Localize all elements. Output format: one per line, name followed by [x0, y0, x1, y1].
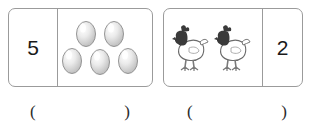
problem-2-answer-blank[interactable]: ( ) [187, 95, 287, 127]
chicken-group [164, 9, 262, 86]
egg-icon [117, 46, 139, 74]
egg-icon [89, 47, 111, 75]
problem-2-objects-cell[interactable] [164, 9, 262, 86]
worksheet-canvas: 5 [0, 0, 313, 137]
egg-group [58, 9, 152, 86]
egg-icon [75, 19, 97, 47]
egg-icon [61, 46, 83, 74]
problem-2-box: 2 [163, 8, 303, 87]
problem-2-number-cell[interactable]: 2 [263, 9, 302, 86]
problem-1-answer-blank[interactable]: ( ) [30, 95, 130, 127]
problem-2-number-value: 2 [277, 36, 289, 60]
chicken-icon [214, 21, 254, 73]
problem-1-close-paren: ) [124, 103, 130, 120]
problem-1-number-cell[interactable]: 5 [9, 9, 57, 86]
chicken-icon [172, 21, 212, 73]
problem-1-number-value: 5 [27, 36, 39, 60]
problem-2: 2 ( ) [163, 0, 306, 137]
problem-1-box: 5 [8, 8, 153, 87]
problem-2-close-paren: ) [281, 103, 287, 120]
egg-icon [103, 19, 125, 47]
problem-2-open-paren: ( [187, 103, 193, 120]
problem-1-open-paren: ( [30, 103, 36, 120]
problem-1-objects-cell[interactable] [58, 9, 152, 86]
problem-1: 5 [8, 0, 156, 137]
